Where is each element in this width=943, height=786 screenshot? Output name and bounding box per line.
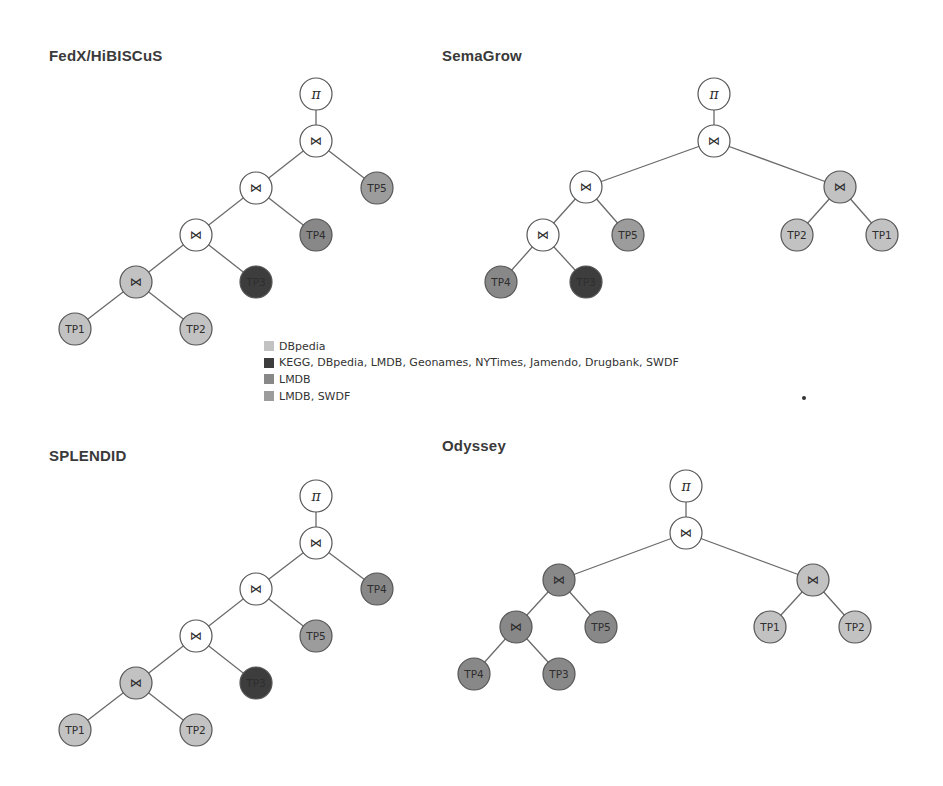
legend-swatch-all-sources	[264, 358, 274, 368]
node-label: TP3	[548, 668, 568, 680]
join-node: ⋈	[240, 573, 272, 605]
node-label: TP1	[64, 323, 84, 335]
node-label: TP4	[463, 668, 484, 680]
triple-pattern-node-tp5: TP5	[361, 172, 393, 204]
bowtie-join-icon: ⋈	[130, 275, 142, 289]
join-node: ⋈	[797, 564, 829, 596]
join-node: ⋈	[120, 266, 152, 298]
join-node: ⋈	[180, 219, 212, 251]
triple-pattern-node-tp2: TP2	[180, 313, 212, 345]
legend-label: KEGG, DBpedia, LMDB, Geonames, NYTimes, …	[279, 356, 679, 369]
join-node: ⋈	[570, 171, 602, 203]
join-node: ⋈	[670, 517, 702, 549]
legend-swatch-lmdb	[264, 374, 274, 384]
bowtie-join-icon: ⋈	[708, 134, 720, 148]
node-label: TP4	[305, 229, 326, 241]
legend-item-all-sources: KEGG, DBpedia, LMDB, Geonames, NYTimes, …	[264, 355, 679, 372]
triple-pattern-node-tp1: TP1	[754, 611, 786, 643]
triple-pattern-node-tp1: TP1	[59, 714, 91, 746]
bowtie-join-icon: ⋈	[310, 134, 322, 148]
node-label: TP1	[759, 621, 779, 633]
node-label: TP5	[366, 182, 386, 194]
tree-edge	[586, 141, 714, 187]
triple-pattern-node-tp5: TP5	[585, 611, 617, 643]
projection-node: π	[300, 480, 332, 512]
bowtie-join-icon: ⋈	[250, 582, 262, 596]
join-node: ⋈	[500, 611, 532, 643]
node-label: TP3	[245, 677, 265, 689]
legend-swatch-dbpedia	[264, 341, 274, 351]
tree-edge	[714, 141, 840, 187]
tree-fedx: π⋈⋈TP5⋈TP4⋈TP3TP1TP2	[59, 78, 393, 345]
bowtie-join-icon: ⋈	[580, 180, 592, 194]
join-node: ⋈	[300, 527, 332, 559]
join-node: ⋈	[240, 172, 272, 204]
bowtie-join-icon: ⋈	[510, 620, 522, 634]
bowtie-join-icon: ⋈	[190, 228, 202, 242]
triple-pattern-node-tp5: TP5	[612, 219, 644, 251]
legend-item-lmdb: LMDB	[264, 371, 679, 388]
triple-pattern-node-tp4: TP4	[458, 658, 490, 690]
bowtie-join-icon: ⋈	[250, 181, 262, 195]
legend-item-dbpedia: DBpedia	[264, 338, 679, 355]
join-node: ⋈	[527, 219, 559, 251]
node-label: TP4	[490, 276, 511, 288]
triple-pattern-node-tp4: TP4	[361, 573, 393, 605]
bowtie-join-icon: ⋈	[537, 228, 549, 242]
node-label: TP2	[185, 724, 205, 736]
join-node: ⋈	[120, 667, 152, 699]
node-label: TP3	[575, 276, 595, 288]
node-label: TP3	[245, 276, 265, 288]
triple-pattern-node-tp1: TP1	[59, 313, 91, 345]
node-label: TP5	[590, 621, 610, 633]
pi-icon: π	[708, 86, 719, 102]
join-node: ⋈	[543, 564, 575, 596]
node-label: TP4	[366, 583, 387, 595]
bowtie-join-icon: ⋈	[553, 573, 565, 587]
triple-pattern-node-tp1: TP1	[866, 219, 898, 251]
legend-label: DBpedia	[279, 340, 326, 353]
legend-label: LMDB, SWDF	[279, 390, 350, 403]
triple-pattern-node-tp2: TP2	[180, 714, 212, 746]
tree-edge	[686, 533, 813, 580]
tree-edge	[559, 533, 686, 580]
bowtie-join-icon: ⋈	[190, 629, 202, 643]
projection-node: π	[300, 78, 332, 110]
stray-dot	[802, 396, 806, 400]
triple-pattern-node-tp3: TP3	[570, 266, 602, 298]
pi-icon: π	[680, 478, 691, 494]
tree-splendid: π⋈⋈TP4⋈TP5⋈TP3TP1TP2	[59, 480, 393, 746]
source-legend: DBpedia KEGG, DBpedia, LMDB, Geonames, N…	[264, 338, 679, 404]
legend-label: LMDB	[279, 373, 311, 386]
triple-pattern-node-tp3: TP3	[543, 658, 575, 690]
triple-pattern-node-tp2: TP2	[839, 611, 871, 643]
join-node: ⋈	[180, 620, 212, 652]
triple-pattern-node-tp2: TP2	[781, 219, 813, 251]
node-label: TP2	[786, 229, 806, 241]
node-label: TP5	[305, 630, 325, 642]
tree-semagrow: π⋈⋈⋈⋈TP5TP2TP1TP4TP3	[485, 78, 898, 298]
legend-swatch-lmdb-swdf	[264, 391, 274, 401]
projection-node: π	[698, 78, 730, 110]
pi-icon: π	[310, 488, 321, 504]
triple-pattern-node-tp4: TP4	[300, 219, 332, 251]
triple-pattern-node-tp3: TP3	[240, 266, 272, 298]
bowtie-join-icon: ⋈	[680, 526, 692, 540]
node-label: TP2	[185, 323, 205, 335]
bowtie-join-icon: ⋈	[834, 180, 846, 194]
node-label: TP1	[64, 724, 84, 736]
bowtie-join-icon: ⋈	[807, 573, 819, 587]
triple-pattern-node-tp4: TP4	[485, 266, 517, 298]
bowtie-join-icon: ⋈	[310, 536, 322, 550]
projection-node: π	[670, 470, 702, 502]
node-label: TP2	[844, 621, 864, 633]
tree-odyssey: π⋈⋈⋈⋈TP5TP1TP2TP4TP3	[458, 470, 871, 690]
join-node: ⋈	[300, 125, 332, 157]
node-label: TP1	[871, 229, 891, 241]
pi-icon: π	[310, 86, 321, 102]
triple-pattern-node-tp5: TP5	[300, 620, 332, 652]
join-node: ⋈	[698, 125, 730, 157]
node-label: TP5	[617, 229, 637, 241]
join-node: ⋈	[824, 171, 856, 203]
triple-pattern-node-tp3: TP3	[240, 667, 272, 699]
